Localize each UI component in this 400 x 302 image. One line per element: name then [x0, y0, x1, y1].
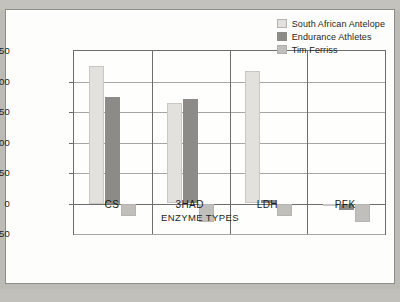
legend-label: South African Antelope [292, 19, 385, 29]
legend-item: Endurance Athletes [277, 30, 385, 43]
gridline [74, 234, 385, 235]
y-tick-label: 200 [0, 75, 10, 86]
y-tick-mark [69, 173, 74, 174]
legend-item: South African Antelope [277, 17, 385, 30]
bar-cs-series-0 [89, 66, 104, 203]
legend-label: Endurance Athletes [292, 32, 372, 42]
bar-cs-series-1 [105, 97, 120, 204]
page-bottom-band [0, 289, 400, 302]
x-tick-label-3had: 3HAD [175, 199, 203, 210]
y-tick-label: 100 [0, 136, 10, 147]
x-tick-label-pfk: PFK [335, 199, 356, 210]
y-tick-mark [69, 112, 74, 113]
x-tick-label-cs: CS [105, 199, 120, 210]
legend-label: Tim Ferriss [292, 45, 338, 55]
bar-3had-series-1 [183, 99, 198, 204]
group-separator [307, 51, 308, 234]
legend-swatch-icon [277, 45, 287, 54]
y-tick-label: 0 [5, 197, 10, 208]
chart-figure: ENZYME ACTIVITY (% OF UNTRAINED HUMANS) … [5, 9, 395, 284]
y-tick-mark [69, 204, 74, 205]
legend-swatch-icon [277, 19, 287, 28]
y-tick-mark [69, 143, 74, 144]
figure-page: ENZYME ACTIVITY (% OF UNTRAINED HUMANS) … [0, 0, 400, 302]
y-tick-mark [69, 82, 74, 83]
legend-swatch-icon [277, 32, 287, 41]
x-axis-title: ENZYME TYPES [6, 212, 394, 223]
group-separator [152, 51, 153, 234]
bar-ldh-series-0 [245, 71, 260, 203]
legend-item: Tim Ferriss [277, 43, 385, 56]
y-tick-label: 50 [0, 167, 10, 178]
chart-legend: South African Antelope Endurance Athlete… [274, 15, 388, 58]
y-tick-label: 250 [0, 45, 10, 56]
bar-3had-series-0 [167, 103, 182, 204]
group-separator [230, 51, 231, 234]
y-tick-label: 150 [0, 106, 10, 117]
y-tick-label: −50 [0, 228, 10, 239]
x-tick-label-ldh: LDH [257, 199, 278, 210]
